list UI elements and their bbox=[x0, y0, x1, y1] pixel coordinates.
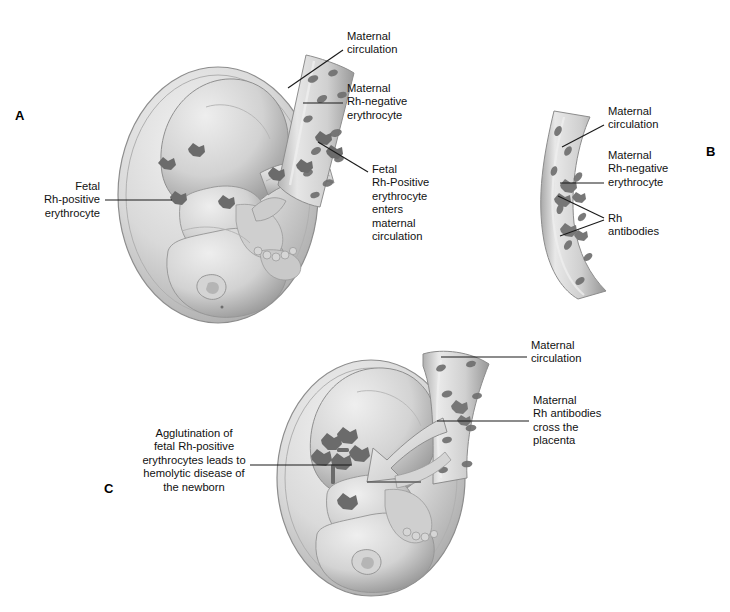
panel-c-leader-lines bbox=[0, 0, 730, 612]
label-c-maternal-circulation: Maternal circulation bbox=[531, 339, 631, 366]
label-c-maternal-rh-antibodies-cross: Maternal Rh antibodies cross the placent… bbox=[533, 394, 643, 448]
rh-incompatibility-figure: A Maternal circulation Maternal Rh-negat… bbox=[0, 0, 730, 612]
label-c-agglutination: Agglutination of fetal Rh-positive eryth… bbox=[140, 427, 248, 494]
